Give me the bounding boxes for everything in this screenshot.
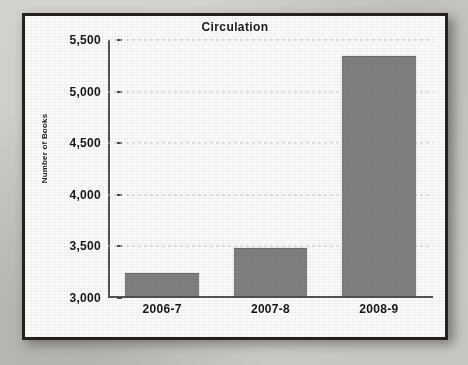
bar-2008-9 <box>342 56 416 296</box>
x-axis-line <box>108 296 433 298</box>
chart-title: Circulation <box>25 20 445 34</box>
y-axis-tick-label: 5,000 <box>39 85 101 99</box>
bar-2007-8 <box>234 248 308 296</box>
y-axis-tick-label: 4,500 <box>39 136 101 150</box>
y-axis-tick-labels: 3,0003,5004,0004,5005,0005,500 <box>39 40 101 298</box>
chart-figure: Circulation Number of Books 3,0003,5004,… <box>25 16 445 337</box>
bar-2006-7 <box>125 273 199 296</box>
x-axis-tick-label: 2006-7 <box>108 302 216 316</box>
gridline <box>108 40 433 41</box>
y-axis-tick-label: 4,000 <box>39 188 101 202</box>
y-axis-tick-label: 3,500 <box>39 239 101 253</box>
y-axis-tick-label: 5,500 <box>39 33 101 47</box>
x-axis-tick-label: 2008-9 <box>325 302 433 316</box>
y-axis-tick-label: 3,000 <box>39 291 101 305</box>
plot-area <box>108 40 433 298</box>
x-axis-tick-label: 2007-8 <box>216 302 324 316</box>
chart-figure-frame: Circulation Number of Books 3,0003,5004,… <box>22 13 448 340</box>
x-axis-tick-labels: 2006-72007-82008-9 <box>108 302 433 326</box>
y-axis-line <box>108 40 110 298</box>
